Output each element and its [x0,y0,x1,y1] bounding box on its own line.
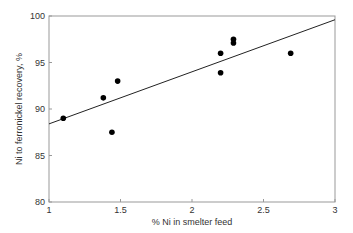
y-tick-label: 90 [35,104,45,114]
chart-svg: 11.522.5380859095100 % Ni in smelter fee… [0,0,353,233]
y-tick-label: 85 [35,151,45,161]
data-point [101,95,107,101]
data-point [109,129,115,135]
data-point [218,50,224,56]
trend-line [49,20,335,124]
data-point [218,70,224,76]
x-tick-label: 2.5 [257,205,270,215]
y-tick-label: 80 [35,197,45,207]
x-tick-label: 3 [332,205,337,215]
y-tick-label: 95 [35,58,45,68]
plot-frame [49,16,335,202]
data-point [61,116,67,122]
data-point [115,78,121,84]
data-point [288,50,294,56]
y-axis-label: Ni to ferronickel recovery, % [14,53,24,165]
data-points [61,36,294,135]
x-tick-label: 1.5 [114,205,127,215]
plot-border [49,16,335,202]
x-axis-label: % Ni in smelter feed [152,217,233,227]
y-tick-label: 100 [30,11,45,21]
data-point [231,40,237,46]
axis-ticks: 11.522.5380859095100 [30,11,338,215]
regression-line [49,20,335,124]
x-tick-label: 1 [46,205,51,215]
scatter-chart: 11.522.5380859095100 % Ni in smelter fee… [0,0,353,233]
x-tick-label: 2 [189,205,194,215]
